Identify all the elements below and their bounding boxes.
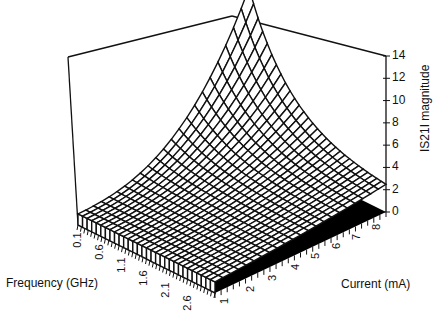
current-tick-label: 5	[309, 253, 321, 259]
z-tick-label: 12	[392, 70, 405, 84]
frequency-tick-label: 1.1	[115, 257, 127, 272]
z-tick-label: 0	[392, 204, 399, 218]
x-axis-label: Frequency (GHz)	[6, 276, 98, 290]
current-tick-label: 4	[289, 264, 301, 270]
y-axis-label: Current (mA)	[341, 277, 410, 291]
current-tick-label: 1	[218, 298, 230, 304]
z-tick-label: 2	[392, 182, 399, 196]
z-tick-label: 10	[392, 93, 405, 107]
frequency-tick-label: 1.6	[137, 270, 149, 285]
frequency-tick-label: 0.1	[71, 232, 83, 247]
current-tick-label: 2	[244, 286, 256, 292]
z-tick-label: 6	[392, 137, 399, 151]
z-tick-label: 14	[392, 48, 405, 62]
surface-plot	[0, 0, 444, 323]
current-tick-label: 3	[266, 275, 278, 281]
frequency-tick-label: 0.6	[93, 244, 105, 259]
z-tick-label: 8	[392, 115, 399, 129]
current-tick-label: 6	[330, 243, 342, 249]
z-tick-label: 4	[392, 159, 399, 173]
z-axis-label: IS21I magnitude	[418, 65, 432, 152]
frequency-tick-label: 2.1	[159, 282, 171, 297]
frequency-tick-label: 2.6	[181, 295, 193, 310]
current-tick-label: 7	[350, 234, 362, 240]
current-tick-label: 8	[370, 224, 382, 230]
